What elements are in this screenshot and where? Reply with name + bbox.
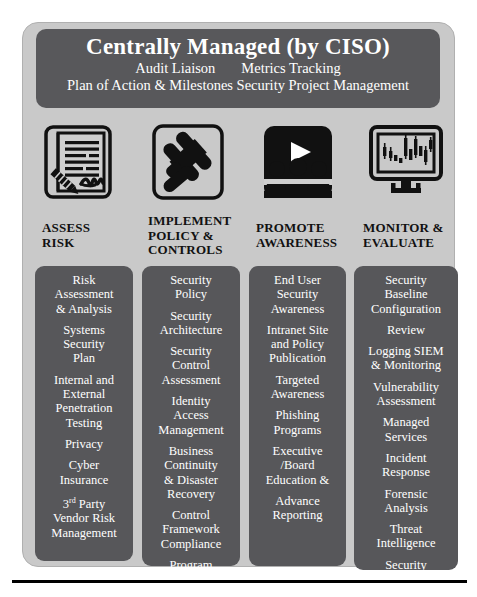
column-heading-line: ASSESS [42,221,142,236]
diagram-page: Centrally Managed (by CISO) Audit Liaiso… [0,0,477,597]
column-list-item-line: Policy [146,287,236,301]
column-list-item-line: Intelligence [358,536,454,550]
signed-document-icon [43,124,113,200]
icon-tile-promote-awareness [250,118,346,206]
column-list-item-line: Advance [253,494,342,508]
column-list-item-line: Publication [253,351,342,365]
column-list-item-line: Threat [358,522,454,536]
column-list-item-line: Programs [253,423,342,437]
column-list-item-line: Management [146,423,236,437]
column-list-item: ManagedServices [358,415,454,444]
column-list-item-line: Security [358,273,454,287]
column-heading-line: PROMOTE [256,221,356,236]
audit-liaison-label: Audit Liaison [135,60,215,77]
column-list-item-line: Intranet Site [253,323,342,337]
column-list-item-line: Security [146,273,236,287]
column-list-item-line: Security [146,309,236,323]
column-list-item-line: Systems [39,323,129,337]
column-heading-implement-policy: IMPLEMENTPOLICY &CONTROLS [148,214,248,258]
column-list-item-line: Response [358,465,454,479]
column-list-item-line: Phishing [253,408,342,422]
bottom-divider [12,580,467,583]
column-list-item: 3rd PartyVendor RiskManagement [39,494,129,540]
column-list-item: Privacy [39,437,129,451]
column-list-item: Review [358,323,454,337]
column-list-item: Internal andExternalPenetrationTesting [39,373,129,430]
column-list-item-line: Risk [39,273,129,287]
column-card-monitor-evaluate: SecurityBaselineConfigurationReviewLoggi… [354,266,458,570]
column-list-item-line: Logging SIEM [358,344,454,358]
column-heading-monitor-evaluate: MONITOR &EVALUATE [363,221,468,250]
column-list-item: SystemsSecurityPlan [39,323,129,366]
column-list-item-line: Cyber [39,458,129,472]
column-list-item-line: Assessment [39,287,129,301]
column-list-item-line: Review [358,323,454,337]
column-list-item: IdentityAccessManagement [146,394,236,437]
column-list-item: RiskAssessment& Analysis [39,273,129,316]
column-list-item-line: Forensic [358,487,454,501]
column-list-item: ThreatIntelligence [358,522,454,551]
column-list-item-line: Security [146,344,236,358]
column-list-item-line: Recovery [146,487,236,501]
column-list-item-line: and Policy [253,337,342,351]
column-heading-line: MONITOR & [363,221,468,236]
column-list-item-line: Control [146,508,236,522]
column-heading-assess-risk: ASSESSRISK [42,221,142,250]
column-list-item-line: Security [358,558,454,572]
column-list-item: Executive/BoardEducation & [253,444,342,487]
column-list-item-line: Baseline [358,287,454,301]
column-list-item-line: Vendor Risk [39,511,129,525]
column-list-item-line: External [39,387,129,401]
page-title: Centrally Managed (by CISO) [36,33,440,60]
column-list-item-line: Penetration [39,401,129,415]
column-list-item-line: Targeted [253,373,342,387]
column-list-item-line: Compliance [146,537,236,551]
column-list-item-line: Services [358,430,454,444]
column-list-item: CyberInsurance [39,458,129,487]
header-subline-2: Plan of Action & Milestones Security Pro… [36,77,440,94]
icon-row [28,118,448,208]
column-heading-line: RISK [42,236,142,251]
column-list-item-line: & Analysis [39,302,129,316]
column-list-item: BusinessContinuity& DisasterRecovery [146,444,236,501]
column-list-item-line: Incident [358,451,454,465]
column-heading-promote-awareness: PROMOTEAWARENESS [256,221,356,250]
column-list-item-line: Plan [39,351,129,365]
column-list-item-line: Identity [146,394,236,408]
column-list-item-line: Education & [253,473,342,487]
column-heading-line: EVALUATE [363,236,468,251]
column-card-promote-awareness: End UserSecurityAwarenessIntranet Sitean… [249,266,346,566]
column-list-item: VulnerabilityAssessment [358,380,454,409]
column-heading-line: AWARENESS [256,236,356,251]
header-subline-1: Audit Liaison Metrics Tracking [36,60,440,77]
column-list-item-line: End User [253,273,342,287]
presentation-audience-icon [261,123,335,201]
column-list-item-line: & Disaster [146,473,236,487]
column-list-item-line: Awareness [253,302,342,316]
column-list-item-line: Configuration [358,302,454,316]
column-list-item: IncidentResponse [358,451,454,480]
column-heading-line: IMPLEMENT [148,214,248,229]
column-list-item-line: Executive [253,444,342,458]
column-list-item-line: Managed [358,415,454,429]
column-list-item-line: Management [39,526,129,540]
column-list-item-line: Insurance [39,473,129,487]
column-list-item-line: Awareness [253,387,342,401]
column-list-item-line: Framework [146,522,236,536]
column-list-item-line: Vulnerability [358,380,454,394]
column-list-item-line: Access [146,408,236,422]
column-list-item-line: Assessment [146,373,236,387]
metrics-tracking-label: Metrics Tracking [241,60,340,77]
column-list-item-line: Testing [39,416,129,430]
column-heading-line: CONTROLS [148,243,248,258]
column-list-item: AdvanceReporting [253,494,342,523]
icon-tile-monitor-evaluate [358,118,454,206]
column-list-item: Intranet Siteand PolicyPublication [253,323,342,366]
column-list-item: SecurityPolicy [146,273,236,302]
column-list-item-line: 3rd Party [39,494,129,511]
column-list-item-line: Program [146,558,236,572]
column-list-item: SecurityControlAssessment [146,344,236,387]
column-list-item-line: Reporting [253,508,342,522]
column-heading-line: POLICY & [148,229,248,244]
column-list-item: SecurityBaselineConfiguration [358,273,454,316]
